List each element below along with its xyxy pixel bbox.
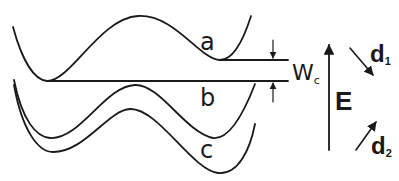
curve-b-label: b (200, 86, 215, 110)
e-field-label: E (335, 88, 352, 114)
curve-a (13, 16, 251, 81)
d1-label-sub: 1 (385, 55, 391, 67)
d1-label-main: d (370, 40, 385, 67)
d2-label-sub: 2 (386, 147, 392, 159)
wc-label-main: W (292, 60, 314, 85)
d2-label: d2 (371, 134, 392, 159)
d2-label-main: d (371, 132, 386, 159)
d1-label: d1 (370, 42, 391, 67)
diagram-canvas: a b c Wc E d1 d2 (0, 0, 399, 181)
curve-c-label: c (200, 138, 213, 162)
curve-c (14, 85, 255, 173)
wc-label-sub: c (314, 74, 320, 87)
wc-label: Wc (292, 62, 320, 86)
curve-a-label: a (200, 30, 215, 54)
